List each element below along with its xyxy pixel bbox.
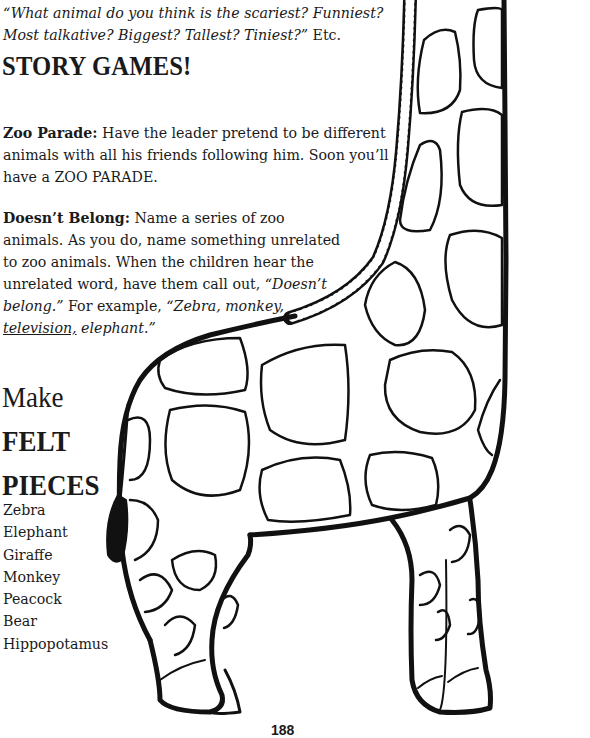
felt-pieces-heading: Make FELT PIECES: [2, 375, 100, 507]
intro-quote-line2: Most talkative? Biggest? Tallest? Tinies…: [3, 27, 308, 43]
intro-quote-line1: “What animal do you think is the scaries…: [3, 5, 383, 21]
list-item: Hippopotamus: [3, 633, 108, 655]
intro-questions: “What animal do you think is the scaries…: [3, 2, 393, 46]
list-item: Peacock: [3, 588, 108, 610]
story-games-heading: STORY GAMES!: [2, 50, 192, 82]
example-quote-a: “Zebra, monkey,: [166, 298, 284, 314]
felt-heading-line2: FELT: [2, 419, 100, 463]
felt-pieces-list: Zebra Elephant Giraffe Monkey Peacock Be…: [3, 499, 108, 655]
page-number: 188: [271, 722, 294, 738]
doesnt-belong-title: Doesn’t Belong:: [3, 210, 130, 226]
zoo-parade-title: Zoo Parade:: [3, 125, 98, 141]
list-item: Giraffe: [3, 544, 108, 566]
list-item: Elephant: [3, 521, 108, 543]
felt-heading-line1: Make: [2, 375, 100, 419]
list-item: Zebra: [3, 499, 108, 521]
doesnt-belong-paragraph: Doesn’t Belong: Name a series of zoo ani…: [3, 207, 348, 339]
example-quote-b: elephant.”: [77, 320, 156, 336]
example-underlined-word: television,: [3, 320, 77, 336]
example-prefix: For example,: [64, 298, 167, 314]
intro-suffix: Etc.: [308, 27, 341, 43]
list-item: Monkey: [3, 566, 108, 588]
list-item: Bear: [3, 610, 108, 632]
zoo-parade-paragraph: Zoo Parade: Have the leader pretend to b…: [3, 122, 393, 188]
